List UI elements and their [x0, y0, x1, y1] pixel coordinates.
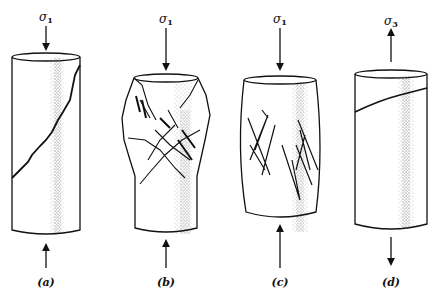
panel-label-b: (b): [157, 276, 175, 289]
specimen-a: [12, 26, 80, 268]
panel-label-a: (a): [37, 276, 55, 289]
sigma-subscript: 1: [47, 15, 53, 25]
sigma-symbol: σ: [384, 14, 392, 28]
rock-failure-diagram: [0, 0, 439, 301]
sigma-subscript: 3: [392, 19, 398, 29]
specimen-c: [240, 28, 320, 268]
stress-label-b: σ1: [159, 13, 173, 26]
stress-label-a: σ1: [39, 11, 53, 24]
sigma-symbol: σ: [273, 12, 281, 26]
stress-label-c: σ1: [273, 13, 287, 26]
sigma-symbol: σ: [159, 12, 167, 26]
stress-label-d: σ3: [384, 15, 398, 28]
sigma-symbol: σ: [39, 10, 47, 24]
sigma-subscript: 1: [167, 17, 173, 27]
panel-label-c: (c): [271, 276, 288, 289]
sigma-subscript: 1: [281, 17, 287, 27]
specimen-b: [122, 28, 210, 268]
specimen-d: [355, 32, 427, 262]
panel-label-d: (d): [382, 276, 400, 289]
